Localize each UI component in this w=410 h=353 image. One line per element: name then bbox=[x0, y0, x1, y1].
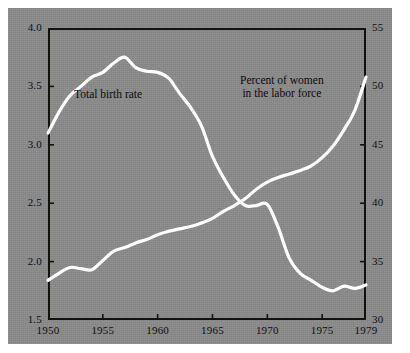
y-left-tick-label-4: 3.5 bbox=[4, 80, 42, 91]
y-right-tick-label-3: 45 bbox=[372, 139, 402, 150]
x-tick-label-1: 1955 bbox=[83, 325, 123, 336]
x-tick-label-0: 1950 bbox=[28, 325, 68, 336]
series-label-birth-rate: Total birth rate bbox=[74, 88, 142, 101]
y-right-tick-label-2: 40 bbox=[372, 197, 402, 208]
series-line-1 bbox=[48, 77, 366, 280]
series-label-labor-force-line2: in the labor force bbox=[240, 87, 324, 100]
x-tick-label-6: 1979 bbox=[346, 325, 386, 336]
y-left-tick-label-1: 2.0 bbox=[4, 256, 42, 267]
y-left-tick-label-3: 3.0 bbox=[4, 139, 42, 150]
x-tick-label-4: 1970 bbox=[247, 325, 287, 336]
y-right-tick-label-4: 50 bbox=[372, 80, 402, 91]
y-right-tick-label-1: 35 bbox=[372, 256, 402, 267]
chart-canvas bbox=[0, 0, 410, 353]
x-tick-label-2: 1960 bbox=[138, 325, 178, 336]
series-label-labor-force-line1: Percent of women bbox=[240, 74, 324, 87]
figure: 1.5 2.0 2.5 3.0 3.5 4.0 30 35 40 45 50 5… bbox=[0, 0, 410, 353]
y-left-tick-label-5: 4.0 bbox=[4, 22, 42, 33]
series-label-labor-force: Percent of women in the labor force bbox=[240, 74, 324, 100]
x-tick-label-5: 1975 bbox=[302, 325, 342, 336]
y-left-tick-label-2: 2.5 bbox=[4, 197, 42, 208]
y-right-tick-label-5: 55 bbox=[372, 22, 402, 33]
x-tick-label-3: 1965 bbox=[192, 325, 232, 336]
